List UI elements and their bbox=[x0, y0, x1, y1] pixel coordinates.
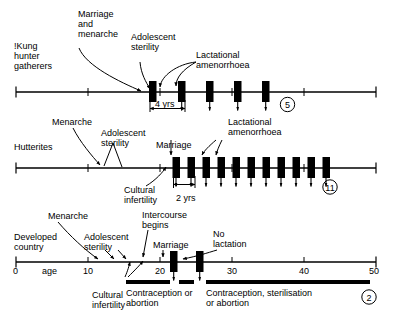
age-tick-0: 0 bbox=[13, 266, 18, 276]
population-label-developed: Developed country bbox=[14, 232, 57, 252]
annotation-menarche-hutterites: Menarche bbox=[52, 117, 92, 127]
annotation-menarche-developed: Menarche bbox=[48, 211, 88, 221]
age-tick-40: 40 bbox=[299, 266, 309, 276]
annotation-marriage-developed: Marriage bbox=[153, 240, 189, 250]
age-tick-50: 50 bbox=[369, 266, 379, 276]
annotation-cultural-infertility-hutterites: Cultural infertility bbox=[124, 185, 157, 205]
annotation-no-lactation: No lactation bbox=[213, 229, 247, 249]
panel-developed-birth-arrows bbox=[174, 272, 200, 281]
panel-developed-leader-lines bbox=[58, 222, 217, 277]
panel-kung-birth-arrows bbox=[182, 102, 266, 111]
panel-kung-axis-group bbox=[16, 87, 376, 98]
panel-hutterites-axis-group bbox=[16, 163, 376, 174]
age-tick-30: 30 bbox=[227, 266, 237, 276]
annotation-adolescent-sterility-kung: Adolescent sterility bbox=[131, 32, 176, 52]
span-label-kung: 4 yrs bbox=[155, 99, 175, 109]
annotation-intercourse-begins: Intercourse begins bbox=[142, 210, 187, 230]
annotation-lactational-amenorrhoea-kung: Lactational amenorrhoea bbox=[196, 50, 250, 70]
control-bar-label-contraception-or-abortion: Contraception or abortion bbox=[126, 288, 193, 308]
birth-count-developed: 2 bbox=[362, 293, 377, 303]
panel-hutterites-leader-lines bbox=[73, 128, 222, 186]
annotation-adolescent-sterility-hutterites: Adolescent sterility bbox=[101, 128, 146, 148]
panel-hutterites-birth-arrows bbox=[176, 178, 326, 187]
population-label-kung: !Kung hunter gatherers bbox=[14, 41, 52, 72]
annotation-lactational-amenorrhoea-hutterites: Lactational amenorrhoea bbox=[228, 117, 282, 137]
birth-count-hutterites: 11 bbox=[323, 183, 338, 193]
age-tick-10: 10 bbox=[83, 266, 93, 276]
annotation-marriage-and-menarche: Marriage and menarche bbox=[78, 9, 118, 40]
annotation-marriage-hutterites: Marriage bbox=[156, 140, 192, 150]
age-tick-20: 20 bbox=[155, 266, 165, 276]
figure-canvas: !Kung hunter gatherers Marriage and mena… bbox=[0, 0, 393, 329]
annotation-cultural-infertility-developed: Cultural infertility bbox=[92, 290, 125, 310]
annotation-adolescent-sterility-developed: Adolescent sterility bbox=[84, 232, 129, 252]
control-bar-label-contraception-sterilisation-or-abortion: Contraception, sterilisation or abortion bbox=[206, 288, 312, 308]
population-label-hutterites: Hutterites bbox=[14, 142, 53, 152]
panel-developed-control-bars bbox=[126, 280, 370, 284]
span-label-hutterites: 2 yrs bbox=[176, 193, 196, 203]
birth-count-kung: 5 bbox=[280, 100, 295, 110]
age-axis-label: age bbox=[42, 266, 57, 276]
